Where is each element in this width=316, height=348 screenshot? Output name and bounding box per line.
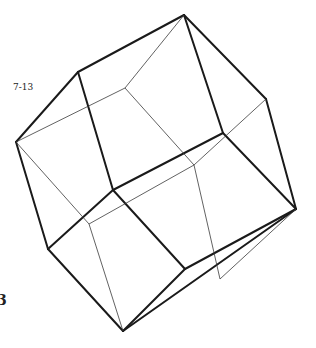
thin-edges: [16, 15, 296, 331]
heavy-edges: [16, 15, 296, 331]
cube-diagram: [0, 0, 316, 348]
